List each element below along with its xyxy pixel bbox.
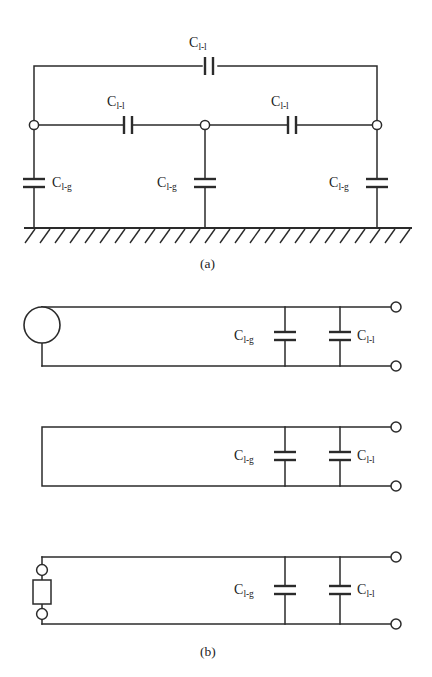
panel-b-circuit-source: [24, 302, 401, 371]
panel-b-circuit-short: [42, 422, 401, 491]
circuit2-capacitor-line-to-line: [329, 452, 351, 460]
panel-a-caption: (a): [200, 257, 215, 271]
circuit2-capacitor-line-to-line-label: Cl-l: [357, 449, 375, 463]
panel-a-shunt-capacitor-middle: [194, 179, 216, 187]
panel-a-shunt-capacitor-right: [366, 179, 388, 187]
panel-a-node-middle: [200, 120, 209, 129]
circuit3-terminal-bottom: [391, 619, 401, 629]
circuit1-terminal-top: [391, 302, 401, 312]
ground-symbol: [24, 228, 412, 243]
panel-a-top-capacitor: [205, 57, 213, 75]
circuit3-capacitor-line-to-line: [329, 586, 351, 594]
circuit2-capacitor-line-to-ground-label: Cl-g: [234, 449, 254, 463]
panel-a-series-capacitor-left-label: Cl-l: [107, 95, 125, 109]
circuit1-capacitor-line-to-ground-label: Cl-g: [234, 329, 254, 343]
ground-hatching: [25, 229, 410, 243]
circuit1-capacitor-line-to-line: [329, 332, 351, 340]
circuit2-capacitor-line-to-ground: [274, 452, 296, 460]
panel-a-shunt-capacitor-right-label: Cl-g: [329, 176, 349, 190]
panel-b-circuit-impedance: [33, 552, 401, 629]
panel-a-node-right: [372, 120, 381, 129]
panel-a-shunt-capacitor-middle-label: Cl-g: [157, 176, 177, 190]
circuit3-terminal-top: [391, 552, 401, 562]
panel-a-series-capacitor-right-label: Cl-l: [271, 95, 289, 109]
circuit1-capacitor-line-to-line-label: Cl-l: [357, 329, 375, 343]
panel-a-shunt-capacitor-left-label: Cl-g: [52, 176, 72, 190]
circuit3-box-terminal-bottom: [37, 609, 48, 620]
panel-a-node-left: [29, 120, 38, 129]
panel-a-group: [23, 57, 412, 243]
circuit3-box-terminal-top: [37, 565, 48, 576]
circuit3-capacitor-line-to-ground: [274, 586, 296, 594]
panel-a-shunt-capacitor-left: [23, 179, 45, 187]
panel-a-series-capacitor-right: [288, 116, 296, 134]
impedance-box-icon: [33, 580, 51, 604]
voltage-source-icon: [24, 307, 60, 343]
panel-a-series-capacitor-left: [124, 116, 132, 134]
circuit1-terminal-bottom: [391, 361, 401, 371]
circuit2-terminal-bottom: [391, 481, 401, 491]
circuit2-loop-rail: [42, 427, 391, 486]
circuit3-capacitor-line-to-ground-label: Cl-g: [234, 583, 254, 597]
circuit2-terminal-top: [391, 422, 401, 432]
panel-b-caption: (b): [200, 645, 216, 659]
circuit-figure: Cl-l Cl-l Cl-l Cl-g Cl-g Cl-g (a) Cl-g C…: [0, 0, 432, 677]
circuit3-capacitor-line-to-line-label: Cl-l: [357, 583, 375, 597]
circuit1-capacitor-line-to-ground: [274, 332, 296, 340]
panel-a-top-capacitor-label: Cl-l: [189, 36, 207, 50]
